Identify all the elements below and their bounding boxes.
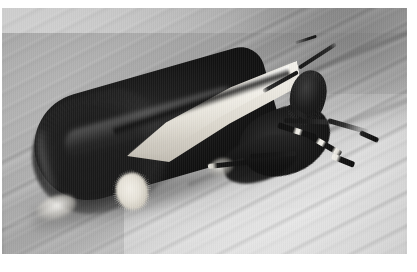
moth-subject [2,8,407,254]
plate-margin-left [0,0,2,272]
plate-margin-top [0,0,417,8]
forewing-pale-spot-fringe [112,169,152,214]
leg-far-tarsus [359,130,379,143]
plate-margin-bottom [0,254,417,272]
leg-front-tarsus [331,153,356,168]
antenna-upper [298,42,337,69]
photograph [2,8,407,254]
plate-margin-right [407,0,417,272]
antenna-upper-tip [295,35,317,45]
photo-frame [0,0,417,272]
